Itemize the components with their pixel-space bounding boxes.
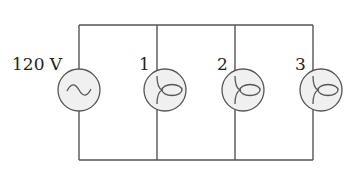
bulb-label: 3 xyxy=(295,54,306,74)
bulb-2: 2 xyxy=(217,54,264,111)
bulb-label: 2 xyxy=(217,54,228,74)
circuit-diagram: 120 V 1 2 3 xyxy=(0,0,351,177)
bulb-label: 1 xyxy=(139,54,150,74)
ac-source: 120 V xyxy=(12,54,100,111)
bulb-3: 3 xyxy=(295,54,342,111)
wires xyxy=(79,25,313,160)
source-voltage-label: 120 V xyxy=(12,54,63,74)
bulb-1: 1 xyxy=(139,54,186,111)
